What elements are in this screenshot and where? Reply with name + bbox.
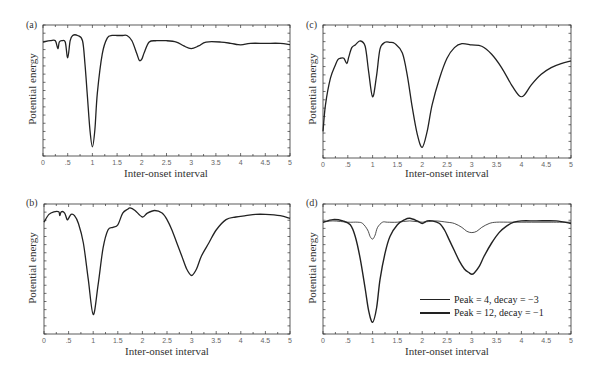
legend-swatch-thin-line-icon: [420, 299, 450, 300]
x-tick-label: 1: [371, 337, 375, 344]
x-tick-label: 4.5: [541, 161, 551, 168]
x-tick-label: 5: [569, 337, 573, 344]
x-tick-label: 2.5: [442, 161, 452, 168]
x-tick-label: .5: [65, 159, 71, 166]
series-line-0: [323, 41, 571, 147]
x-tick-label: 1.5: [393, 337, 403, 344]
plot-frame: [43, 25, 290, 156]
x-tick-label: 4: [519, 161, 523, 168]
x-tick-label: .5: [345, 161, 351, 168]
x-tick-label: 3: [470, 161, 474, 168]
x-tick-label: 1.5: [113, 337, 123, 344]
x-tick-label: 0: [321, 161, 325, 168]
x-tick-label: 5: [288, 337, 292, 344]
legend: Peak = 4, decay = −3 Peak = 12, decay = …: [420, 293, 544, 319]
x-tick-label: 4.5: [260, 159, 270, 166]
x-tick-label: 0: [42, 337, 46, 344]
x-tick-label: 2: [420, 337, 424, 344]
x-tick-label: .5: [66, 337, 72, 344]
x-tick-label: 3.5: [492, 337, 502, 344]
x-tick-label: 2.5: [162, 159, 172, 166]
series-line-0: [43, 35, 290, 147]
x-tick-label: 1: [91, 337, 95, 344]
plot-frame: [44, 204, 290, 334]
x-tick-label: 2: [140, 159, 144, 166]
x-tick-label: 0: [41, 159, 45, 166]
x-tick-label: 3: [189, 159, 193, 166]
x-tick-label: 1: [371, 161, 375, 168]
legend-swatch-thick-line-icon: [420, 312, 450, 314]
legend-item-thick: Peak = 12, decay = −1: [420, 306, 544, 319]
plot-b: 0.511.522.533.544.55: [42, 204, 292, 344]
plot-d: 0.511.522.533.544.55: [321, 204, 573, 344]
series-line-0: [44, 208, 290, 315]
x-tick-label: 3.5: [211, 337, 221, 344]
plot-c: 0.511.522.533.544.55: [321, 25, 573, 168]
x-tick-label: 2: [420, 161, 424, 168]
legend-label-thin: Peak = 4, decay = −3: [454, 294, 539, 305]
plot-a: 0.511.522.533.544.55: [41, 25, 292, 166]
x-tick-label: 1.5: [393, 161, 403, 168]
x-tick-label: 4.5: [261, 337, 271, 344]
plot-frame: [323, 25, 571, 158]
x-tick-label: 3.5: [211, 159, 221, 166]
x-tick-label: 4: [239, 159, 243, 166]
x-tick-label: 2.5: [442, 337, 452, 344]
x-tick-label: 3: [190, 337, 194, 344]
x-tick-label: 0: [321, 337, 325, 344]
x-tick-label: 2: [140, 337, 144, 344]
x-tick-label: 2.5: [162, 337, 172, 344]
legend-item-thin: Peak = 4, decay = −3: [420, 293, 544, 306]
x-tick-label: 1.5: [112, 159, 122, 166]
x-tick-label: .5: [345, 337, 351, 344]
x-tick-label: 4: [519, 337, 523, 344]
legend-label-thick: Peak = 12, decay = −1: [454, 307, 544, 318]
x-tick-label: 5: [569, 161, 573, 168]
x-tick-label: 5: [288, 159, 292, 166]
x-tick-label: 3.5: [492, 161, 502, 168]
x-tick-label: 3: [470, 337, 474, 344]
x-tick-label: 1: [90, 159, 94, 166]
x-tick-label: 4: [239, 337, 243, 344]
x-tick-label: 4.5: [541, 337, 551, 344]
